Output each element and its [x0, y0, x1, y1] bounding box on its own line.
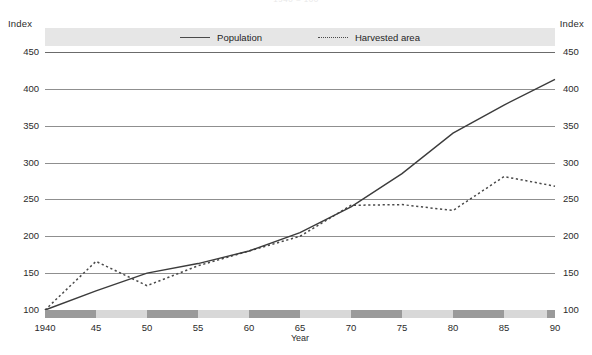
x-tick-55: 55 [193, 322, 204, 333]
x-band-segment [45, 310, 96, 318]
y-tick-r-350: 350 [563, 121, 579, 131]
y-tick-r-300: 300 [563, 158, 579, 168]
x-band-segment [453, 310, 504, 318]
legend-label-harvested-area: Harvested area [355, 32, 420, 43]
x-band-segment [249, 310, 300, 318]
y-tick-l-200: 200 [23, 231, 39, 241]
x-band-segment [147, 310, 198, 318]
y-tick-l-100: 100 [23, 305, 39, 315]
y-tick-l-350: 350 [23, 121, 39, 131]
legend-item-population: Population [180, 32, 262, 43]
y-tick-r-250: 250 [563, 194, 579, 204]
plot-area [45, 52, 555, 310]
y-tick-r-450: 450 [563, 47, 579, 57]
legend-solid-line-icon [180, 37, 210, 38]
x-tick-75: 75 [397, 322, 408, 333]
line-population [45, 79, 555, 310]
y-tick-l-250: 250 [23, 194, 39, 204]
chart-root: 1940 = 100 Index Index Population Harves… [0, 0, 592, 355]
y-tick-r-150: 150 [563, 268, 579, 278]
chart-legend: Population Harvested area [45, 28, 555, 46]
x-tick-65: 65 [295, 322, 306, 333]
right-axis-unit-label: Index [560, 18, 584, 29]
x-tick-45: 45 [91, 322, 102, 333]
x-tick-1940: 1940 [34, 322, 55, 333]
left-axis-unit-label: Index [8, 18, 32, 29]
x-tick-85: 85 [499, 322, 510, 333]
legend-label-population: Population [217, 32, 262, 43]
x-band-segment [351, 310, 402, 318]
line-harvested-area [45, 177, 555, 310]
y-tick-r-100: 100 [563, 305, 579, 315]
y-tick-l-400: 400 [23, 84, 39, 94]
y-tick-l-300: 300 [23, 158, 39, 168]
x-tick-70: 70 [346, 322, 357, 333]
x-tick-90: 90 [550, 322, 561, 333]
legend-item-harvested-area: Harvested area [318, 32, 420, 43]
y-tick-r-400: 400 [563, 84, 579, 94]
chart-title: 1940 = 100 [0, 0, 592, 2]
x-axis-band-strip [45, 310, 555, 318]
y-tick-r-200: 200 [563, 231, 579, 241]
legend-dotted-line-icon [318, 37, 348, 38]
x-tick-80: 80 [448, 322, 459, 333]
x-band-end-cap [547, 310, 555, 318]
y-tick-l-450: 450 [23, 47, 39, 57]
x-tick-60: 60 [244, 322, 255, 333]
series-lines [45, 52, 555, 310]
x-tick-50: 50 [142, 322, 153, 333]
y-tick-l-150: 150 [23, 268, 39, 278]
x-axis-title: Year [291, 333, 309, 343]
